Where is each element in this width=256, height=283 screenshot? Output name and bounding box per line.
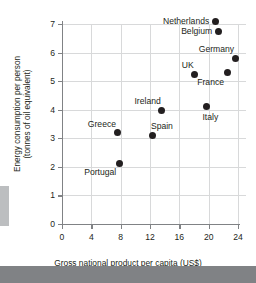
data-point	[114, 129, 121, 136]
data-point	[158, 107, 165, 114]
page-edge-tab	[0, 186, 9, 226]
y-axis-tick-label: 5	[50, 76, 55, 86]
x-axis-tick	[209, 224, 210, 229]
y-axis-tick	[58, 195, 63, 196]
y-axis-title-line2: (tonnes of oil equivalent)	[23, 14, 33, 214]
y-axis-tick-label: 6	[50, 48, 55, 58]
x-axis-tick-label: 8	[118, 232, 123, 242]
data-point	[212, 18, 219, 25]
y-axis-title: Energy consumption per person (tonnes of…	[13, 14, 33, 214]
data-point-label: UK	[182, 60, 194, 70]
data-point-label: France	[197, 77, 224, 87]
data-point	[215, 28, 222, 35]
data-point	[232, 55, 239, 62]
x-axis-tick	[91, 224, 92, 229]
gridline-vertical	[238, 24, 239, 224]
y-axis-tick	[58, 53, 63, 54]
y-axis-tick	[58, 110, 63, 111]
gridline-vertical	[179, 24, 180, 224]
y-axis-tick-label: 3	[50, 133, 55, 143]
x-axis-tick-label: 20	[204, 232, 214, 242]
data-point-label: Italy	[202, 112, 218, 122]
x-axis-tick-label: 0	[60, 232, 65, 242]
gridline-vertical	[121, 24, 122, 224]
y-axis-tick	[58, 167, 63, 168]
x-axis-tick-label: 12	[145, 232, 155, 242]
data-point-label: Ireland	[134, 96, 160, 106]
y-axis-title-line1: Energy consumption per person	[13, 56, 22, 172]
page-footer-band	[0, 266, 256, 283]
x-axis-tick	[179, 224, 180, 229]
data-point-label: Netherlands	[163, 16, 209, 26]
scatter-chart-figure: Energy consumption per person (tonnes of…	[0, 0, 256, 283]
y-axis-tick-label: 4	[50, 105, 55, 115]
data-point-label: Germany	[199, 44, 234, 54]
y-axis-tick-label: 1	[50, 190, 55, 200]
x-axis-tick-label: 24	[233, 232, 243, 242]
plot-area: 0123456704812162024NetherlandsBelgiumGer…	[62, 24, 238, 224]
y-axis-tick	[58, 81, 63, 82]
y-axis-tick-label: 0	[50, 219, 55, 229]
data-point	[116, 160, 123, 167]
y-axis-tick-label: 7	[50, 19, 55, 29]
x-axis-tick	[121, 224, 122, 229]
data-point-label: Spain	[151, 121, 173, 131]
y-axis-tick-label: 2	[50, 162, 55, 172]
data-point-label: Belgium	[181, 26, 212, 36]
y-axis-tick	[58, 24, 63, 25]
x-axis-tick-label: 16	[175, 232, 185, 242]
x-axis-tick-label: 4	[89, 232, 94, 242]
data-point	[224, 69, 231, 76]
y-axis-tick	[58, 138, 63, 139]
gridline-horizontal	[62, 110, 246, 111]
x-axis-tick	[150, 224, 151, 229]
data-point-label: Portugal	[84, 167, 116, 177]
x-axis-tick	[238, 224, 239, 229]
gridline-horizontal	[62, 24, 246, 25]
gridline-horizontal	[62, 195, 246, 196]
data-point-label: Greece	[88, 119, 116, 129]
x-axis-tick	[62, 224, 63, 229]
